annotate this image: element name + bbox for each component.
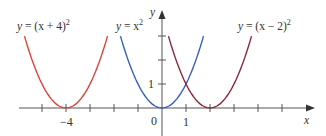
curve-x-plus-4-squared [24,36,107,108]
x-axis-label: x [303,114,310,126]
x-tick-label-0: 0 [151,114,157,128]
label-x-plus-4-squared: y = (x + 4)2 [16,18,70,33]
x-axis-arrow-icon [306,105,315,112]
curve-x-minus-2-squared [168,36,251,108]
x-tick-label-neg4: −4 [60,115,73,129]
x-tick-label-1: 1 [183,115,189,129]
label-x-minus-2-squared: y = (x − 2)2 [237,18,291,33]
parabola-graph: −4 0 1 1 x y y = (x + 4)2 y = x2 y = (x … [0,0,326,136]
y-axis-arrow-icon [159,10,166,19]
label-x-squared: y = x2 [115,18,143,33]
y-axis-label: y [149,6,156,19]
y-tick-label-1: 1 [148,77,154,91]
